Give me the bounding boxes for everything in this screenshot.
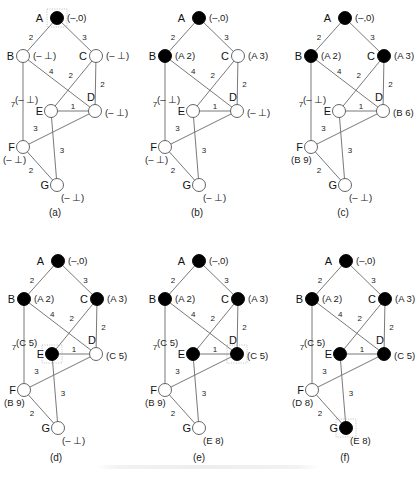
node-distance-label: (– ⊥) (157, 94, 180, 105)
edge-weight-c-e: 2 (70, 314, 75, 323)
node-e: E(– ⊥) (303, 94, 346, 118)
panel-c-nodes: A(–,0)B(A 2)C(A 3)D(B 6)E(– ⊥)F(B 9)G(– … (291, 12, 414, 204)
node-distance-label: (–,0) (355, 12, 375, 23)
node-a: A(–,0) (178, 12, 229, 25)
node-distance-label: (A 2) (321, 50, 341, 61)
node-d: D(C 5) (88, 334, 127, 361)
node-distance-label: (B 9) (145, 397, 166, 408)
node-name: E (324, 105, 331, 117)
node-distance-label: (– ⊥) (15, 94, 38, 105)
unvisited-node-circle-icon (17, 50, 30, 63)
edge-weight-b-d: 4 (49, 67, 54, 76)
edge-weight-b-d: 4 (338, 310, 343, 319)
panel-a: 2347221332 A(–,0)B(– ⊥)C(– ⊥)D(– ⊥)E(– ⊥… (3, 9, 129, 218)
edge-weight-d-f: 3 (175, 124, 180, 133)
node-f: F(B 9) (145, 384, 172, 409)
node-name: C (79, 50, 87, 62)
edge-weight-b-d: 4 (337, 67, 342, 76)
node-name: A (37, 255, 45, 267)
panel-e-nodes: A(–,0)B(A 2)C(A 3)D(C 5)E(C 5)F(B 9)G(E … (145, 255, 268, 447)
edge-weight-a-c: 3 (370, 33, 375, 42)
node-distance-label: (A 2) (175, 50, 195, 61)
node-e: E(C 5) (157, 337, 200, 361)
unvisited-node-circle-icon (333, 105, 346, 118)
edge-weight-d-f: 3 (34, 367, 39, 376)
node-c: C(A 3) (221, 293, 268, 306)
node-distance-label: (– ⊥) (349, 192, 372, 203)
node-name: E (36, 105, 43, 117)
node-name: A (178, 255, 186, 267)
node-name: F (8, 141, 15, 153)
unvisited-node-circle-icon (159, 141, 172, 154)
node-distance-label: (–,0) (356, 255, 376, 266)
edge-e-g (51, 111, 57, 185)
node-f: F(B 9) (4, 384, 31, 409)
edge-weight-b-d: 4 (50, 310, 55, 319)
edge-weight-a-b: 2 (318, 276, 323, 285)
panel-b-nodes: A(–,0)B(A 2)C(A 3)D(– ⊥)E(– ⊥)F(– ⊥)G(– … (145, 12, 270, 204)
node-distance-label: (A 2) (34, 293, 54, 304)
node-e: E(C 5) (16, 337, 62, 363)
edge-weight-c-d: 2 (389, 323, 394, 332)
edge-weight-a-b: 2 (171, 276, 176, 285)
edge-e-g (52, 354, 58, 428)
node-name: E (37, 348, 44, 360)
edge-weight-e-g: 3 (202, 146, 207, 155)
edge-weight-f-g: 2 (171, 166, 176, 175)
node-g: G(E 8) (329, 419, 370, 446)
edge-c-d (384, 299, 385, 354)
node-name: A (36, 12, 44, 24)
node-d: D(B 6) (375, 91, 414, 118)
dijkstra-figure: 2347221332 A(–,0)B(– ⊥)C(– ⊥)D(– ⊥)E(– ⊥… (0, 0, 418, 477)
node-name: C (368, 293, 376, 305)
edge-c-d (237, 56, 238, 111)
node-name: B (7, 50, 14, 62)
panel-d-caption: (d) (50, 452, 62, 463)
panel-b: 2347221332 A(–,0)B(A 2)C(A 3)D(– ⊥)E(– ⊥… (145, 12, 270, 219)
node-a: A(–,0) (324, 12, 375, 25)
visited-node-circle-icon (340, 255, 353, 268)
edge-weight-e-d: 1 (71, 102, 76, 111)
node-distance-label: (– ⊥) (106, 50, 129, 61)
edge-c-d (237, 299, 238, 354)
edge-weight-e-g: 3 (349, 389, 354, 398)
node-g: G(– ⊥) (41, 422, 85, 447)
node-distance-label: (E 8) (203, 435, 224, 446)
visited-node-circle-icon (378, 348, 391, 361)
visited-node-circle-icon (187, 348, 200, 361)
edge-weight-c-e: 2 (211, 314, 216, 323)
node-g: G(– ⊥) (40, 179, 84, 204)
visited-node-circle-icon (378, 50, 391, 63)
node-d: D(– ⊥) (87, 91, 128, 118)
edge-c-d (383, 56, 384, 111)
edge-weight-e-g: 3 (61, 389, 66, 398)
edge-weight-a-c: 3 (82, 33, 87, 42)
node-distance-label: (– ⊥) (62, 435, 85, 446)
edge-weight-b-d: 4 (191, 310, 196, 319)
node-c: C(A 3) (80, 293, 127, 306)
node-c: C(– ⊥) (79, 50, 129, 63)
visited-node-circle-icon (306, 293, 319, 306)
node-b: B(A 2) (149, 50, 195, 63)
edge-weight-a-b: 2 (171, 33, 176, 42)
node-distance-label: (– ⊥) (303, 94, 326, 105)
node-g: G(E 8) (182, 422, 223, 447)
edge-e-g (340, 354, 346, 428)
unvisited-node-circle-icon (305, 141, 318, 154)
panel-e-caption: (e) (193, 452, 205, 463)
node-f: F(D 8) (292, 384, 319, 409)
edge-a-c (345, 18, 384, 56)
node-distance-label: (–,0) (209, 12, 229, 23)
unvisited-node-circle-icon (90, 50, 103, 63)
unvisited-node-circle-icon (193, 422, 206, 435)
edge-weight-d-f: 3 (175, 367, 180, 376)
edge-weight-a-c: 3 (83, 276, 88, 285)
edge-weight-e-g: 3 (202, 389, 207, 398)
node-name: G (328, 179, 337, 191)
node-name: F (9, 384, 16, 396)
unvisited-node-circle-icon (90, 348, 103, 361)
visited-node-circle-icon (159, 50, 172, 63)
node-distance-label: (–,0) (67, 12, 87, 23)
node-distance-label: (– ⊥) (3, 154, 26, 165)
node-g: G(– ⊥) (328, 179, 372, 204)
